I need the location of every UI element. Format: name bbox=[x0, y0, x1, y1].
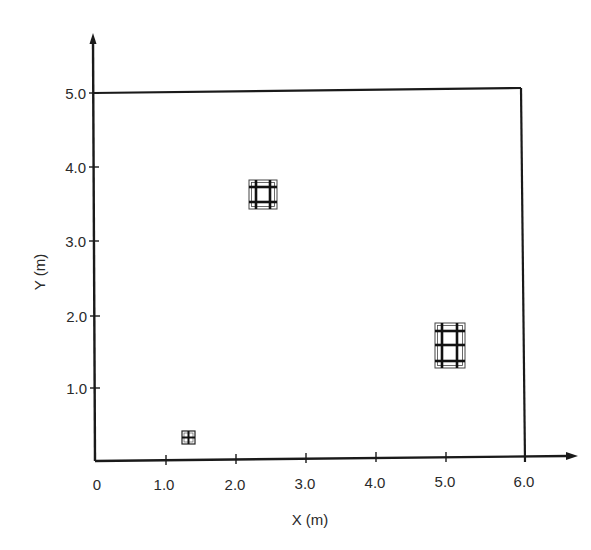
x-axis bbox=[95, 452, 578, 465]
y-axis bbox=[89, 33, 100, 461]
floor-plan-diagram: 5.0 4.0 3.0 2.0 1.0 Y (m) 0 1.0 2.0 3.0 … bbox=[0, 0, 591, 550]
y-tick-3: 3.0 bbox=[65, 233, 86, 250]
x-tick-5: 5.0 bbox=[435, 473, 456, 490]
y-tick-5: 5.0 bbox=[65, 85, 86, 102]
y-tick-2: 2.0 bbox=[66, 308, 87, 325]
y-axis-tick-labels: 5.0 4.0 3.0 2.0 1.0 bbox=[65, 85, 87, 397]
x-tick-2: 2.0 bbox=[225, 476, 246, 493]
room-boundary bbox=[93, 88, 525, 462]
y-axis-label: Y (m) bbox=[31, 254, 48, 290]
x-tick-1: 1.0 bbox=[154, 476, 175, 493]
y-tick-4: 4.0 bbox=[65, 159, 86, 176]
x-axis-tick-labels: 0 1.0 2.0 3.0 4.0 5.0 6.0 bbox=[93, 473, 535, 493]
grid-object-1 bbox=[249, 180, 277, 209]
x-axis-label: X (m) bbox=[292, 511, 329, 528]
grid-object-3 bbox=[182, 431, 195, 444]
x-tick-6: 6.0 bbox=[514, 473, 535, 490]
x-tick-0: 0 bbox=[93, 476, 101, 493]
grid-object-2 bbox=[435, 323, 465, 368]
y-axis-arrow-icon bbox=[90, 33, 97, 44]
x-tick-3: 3.0 bbox=[295, 475, 316, 492]
x-axis-arrow-icon bbox=[566, 452, 578, 460]
y-tick-1: 1.0 bbox=[66, 380, 87, 397]
x-tick-4: 4.0 bbox=[365, 474, 386, 491]
